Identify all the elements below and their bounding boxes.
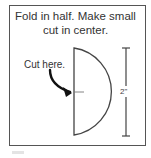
faint-mark (12, 151, 24, 154)
cut-here-label: Cut here. (24, 59, 65, 70)
half-circle-shape (74, 48, 111, 135)
diagram-drawing (0, 0, 151, 158)
dimension-label: 2" (120, 86, 127, 97)
curved-arrow-icon (50, 70, 70, 92)
